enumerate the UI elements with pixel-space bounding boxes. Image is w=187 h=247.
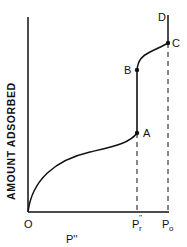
isotherm-curve-BC [137, 43, 168, 70]
svg-text:'': '' [139, 213, 143, 222]
point-A-marker [135, 131, 139, 135]
svg-text:r: r [139, 224, 142, 233]
isotherm-diagram: A B C D O P '' r P o P'' AMOUNT ADSORBED [0, 0, 187, 247]
svg-text:o: o [169, 224, 174, 233]
isotherm-curve-OA [28, 133, 137, 212]
point-B-marker [135, 68, 139, 72]
tick-label-Pr: P '' r [132, 213, 143, 233]
origin-label: O [24, 218, 33, 230]
y-axis-label: AMOUNT ADSORBED [5, 82, 17, 200]
point-C-marker [166, 41, 170, 45]
point-C-label: C [172, 37, 180, 49]
point-D-label: D [158, 11, 166, 23]
x-axis-label: P'' [66, 233, 78, 245]
point-B-label: B [124, 64, 131, 76]
point-A-label: A [143, 127, 151, 139]
tick-label-Po: P o [162, 218, 174, 233]
